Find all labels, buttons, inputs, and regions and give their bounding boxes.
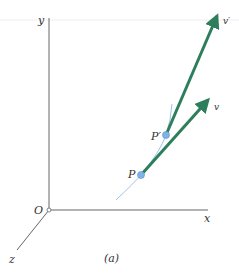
- origin-marker: [47, 208, 51, 212]
- z-axis-label: z: [8, 253, 15, 266]
- point-p-prime: [163, 132, 170, 139]
- kinematics-diagram: y x z O P P′ v v′ (a): [0, 0, 239, 273]
- origin-label: O: [34, 204, 43, 217]
- point-p-prime-label: P′: [150, 130, 161, 143]
- caption: (a): [104, 252, 119, 265]
- vector-v-label: v: [214, 102, 219, 112]
- point-p-label: P: [127, 168, 136, 181]
- y-axis-label: y: [37, 14, 45, 27]
- point-p: [138, 172, 145, 179]
- vector-v-prime-label: v′: [223, 16, 230, 26]
- trajectory-curve: [116, 104, 172, 200]
- z-axis: [17, 210, 49, 250]
- x-axis-label: x: [204, 212, 211, 225]
